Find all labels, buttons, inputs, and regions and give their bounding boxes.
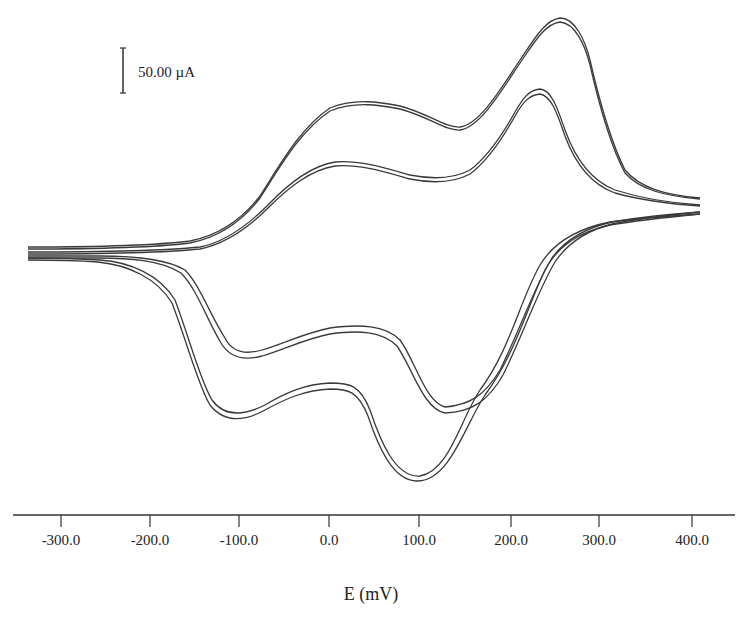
x-tick-label: -200.0 bbox=[131, 532, 170, 548]
outer-anodic-trace-b bbox=[28, 22, 700, 249]
outer-anodic-trace-a bbox=[28, 18, 700, 247]
x-axis: -300.0 -200.0 -100.0 0.0 100.0 200.0 300… bbox=[13, 515, 735, 605]
cyclic-voltammogram: 50.00 µA -300.0 -200.0 -100.0 bbox=[0, 0, 746, 627]
current-scale-bar: 50.00 µA bbox=[120, 48, 195, 93]
x-tick-label: -100.0 bbox=[220, 532, 259, 548]
scan-inner bbox=[28, 89, 700, 413]
scale-bar-label: 50.00 µA bbox=[138, 64, 195, 80]
x-tick-label: 0.0 bbox=[320, 532, 339, 548]
x-axis-title: E (mV) bbox=[344, 584, 398, 605]
outer-cathodic-trace-b bbox=[28, 214, 700, 481]
inner-cathodic-trace-b bbox=[28, 212, 700, 413]
x-tick-label: 300.0 bbox=[582, 532, 616, 548]
x-ticks bbox=[61, 515, 692, 527]
inner-anodic-trace-b bbox=[28, 94, 700, 254]
x-tick-label: 200.0 bbox=[494, 532, 528, 548]
x-tick-label: -300.0 bbox=[42, 532, 81, 548]
x-tick-label: 100.0 bbox=[402, 532, 436, 548]
scan-outer bbox=[28, 18, 700, 481]
inner-cathodic-trace-a bbox=[28, 212, 700, 407]
x-tick-labels: -300.0 -200.0 -100.0 0.0 100.0 200.0 300… bbox=[42, 532, 709, 548]
x-tick-label: 400.0 bbox=[675, 532, 709, 548]
